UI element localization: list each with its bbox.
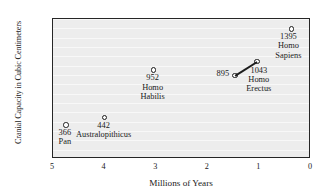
x-tick-label: 3: [145, 162, 165, 171]
y-tick-mark: [52, 103, 53, 104]
y-tick-mark: [52, 140, 53, 141]
data-point-marker: [289, 26, 294, 31]
gridline: [53, 112, 309, 113]
data-point-marker: [151, 67, 156, 72]
annotation-erectus_b-line0: 1043: [246, 66, 271, 75]
annotation-erectus_b: 1043HomoErectus: [246, 66, 271, 94]
y-tick-mark: [52, 56, 53, 57]
annotation-pan-line1: Pan: [59, 137, 72, 146]
y-tick-mark: [52, 75, 53, 76]
annotation-pan: 366Pan: [59, 128, 72, 147]
y-tick-mark: [52, 112, 53, 113]
gridline: [53, 150, 309, 151]
gridline: [53, 38, 309, 39]
gridline: [53, 140, 309, 141]
annotation-sapiens-line2: Sapiens: [275, 51, 301, 60]
annotation-sapiens-line0: 1395: [275, 32, 301, 41]
x-tick-mark: [208, 157, 209, 158]
x-tick-mark: [259, 157, 260, 158]
y-tick-mark: [52, 47, 53, 48]
x-tick-mark: [156, 157, 157, 158]
annotation-australopithicus-line0: 442: [76, 121, 131, 130]
annotation-pan-line0: 366: [59, 128, 72, 137]
x-tick-mark: [53, 157, 54, 158]
annotation-erectus_b-line2: Erectus: [246, 84, 271, 93]
annotation-erectus_b-line1: Homo: [246, 75, 271, 84]
annotation-erectus_a-line0: 895: [217, 69, 230, 78]
y-tick-mark: [52, 131, 53, 132]
x-tick-label: 5: [42, 162, 62, 171]
y-axis-title: Cranial Capacity in Cubic Centimeters: [14, 3, 23, 163]
gridline: [53, 28, 309, 29]
x-tick-label: 1: [248, 162, 268, 171]
y-tick-mark: [52, 19, 53, 20]
gridline: [53, 19, 309, 20]
y-tick-mark: [52, 65, 53, 66]
x-axis-title: Millions of Years: [52, 178, 310, 188]
x-tick-label: 2: [197, 162, 217, 171]
y-tick-mark: [52, 84, 53, 85]
y-tick-mark: [52, 121, 53, 122]
annotation-habilis-line0: 952: [141, 73, 165, 82]
annotation-sapiens: 1395HomoSapiens: [275, 32, 301, 60]
cranial-capacity-scatter-chart: Cranial Capacity in Cubic Centimeters 01…: [0, 0, 328, 195]
y-tick-mark: [52, 93, 53, 94]
annotation-australopithicus: 442Australopithicus: [76, 121, 131, 140]
x-tick-label: 0: [300, 162, 320, 171]
annotation-australopithicus-line1: Australopithicus: [76, 130, 131, 139]
annotation-habilis-line1: Homo: [141, 83, 165, 92]
annotation-erectus_a: 895: [217, 69, 230, 78]
gridline: [53, 56, 309, 57]
y-tick-mark: [52, 37, 53, 38]
x-tick-mark: [105, 157, 106, 158]
data-point-marker: [102, 115, 107, 120]
annotation-habilis: 952HomoHabilis: [141, 73, 165, 101]
gridline: [53, 47, 309, 48]
gridline: [53, 103, 309, 104]
y-tick-mark: [52, 28, 53, 29]
data-point-marker: [63, 122, 68, 127]
y-tick-mark: [52, 149, 53, 150]
x-tick-label: 4: [94, 162, 114, 171]
annotation-sapiens-line1: Homo: [275, 41, 301, 50]
annotation-habilis-line2: Habilis: [141, 92, 165, 101]
